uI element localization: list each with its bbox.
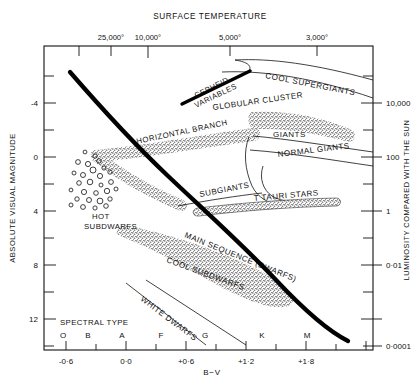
label-subdwarfs: SUBDWARFS: [84, 222, 137, 231]
right-axis-title: LUMINOSITY COMPARED WITH THE SUN: [402, 120, 411, 281]
lum-tick-00001: 0·0001: [386, 342, 411, 351]
top-axis-title: SURFACE TEMPERATURE: [153, 12, 266, 21]
left-axis-title: ABSOLUTE VISUAL MAGNITUDE: [8, 133, 17, 263]
mag-tick-minus4: -4: [31, 99, 39, 108]
bv-tick-00: 0·0: [120, 357, 132, 366]
bv-tick-m06: -0·6: [59, 357, 74, 366]
spectral-type-a: A: [119, 331, 125, 340]
temp-tick-10000: 10,000°: [135, 33, 161, 42]
lum-tick-10000: 10,000: [386, 99, 411, 108]
spectral-type-f: F: [159, 331, 164, 340]
spectral-type-b: B: [85, 331, 90, 340]
spectral-type-label: SPECTRAL TYPE: [60, 318, 128, 327]
spectral-type-m: M: [304, 331, 311, 340]
bottom-axis-title: B−V: [203, 368, 221, 377]
mag-tick-8: 8: [34, 261, 39, 270]
temp-tick-25000: 25,000°: [98, 33, 124, 42]
lum-tick-001: 0·01: [386, 261, 403, 270]
spectral-type-o: O: [60, 331, 66, 340]
bv-tick-p06: +0·6: [178, 357, 195, 366]
lum-tick-100: 100: [386, 153, 400, 162]
hr-diagram-figure: SURFACE TEMPERATURE 25,000° 10,000° 5,00…: [0, 0, 420, 385]
mag-tick-0: 0: [34, 153, 39, 162]
bv-tick-p18: +1·8: [298, 357, 315, 366]
spectral-type-g: G: [202, 331, 208, 340]
bv-tick-p12: +1·2: [238, 357, 255, 366]
mag-tick-4: 4: [34, 207, 39, 216]
temp-tick-5000: 5,000°: [219, 33, 241, 42]
temp-tick-3000: 3,000°: [306, 33, 328, 42]
spectral-type-k: K: [259, 331, 265, 340]
label-hot: HOT: [92, 212, 110, 221]
label-giants: GIANTS: [273, 130, 306, 139]
mag-tick-12: 12: [29, 315, 38, 324]
lum-tick-1: 1: [386, 207, 391, 216]
